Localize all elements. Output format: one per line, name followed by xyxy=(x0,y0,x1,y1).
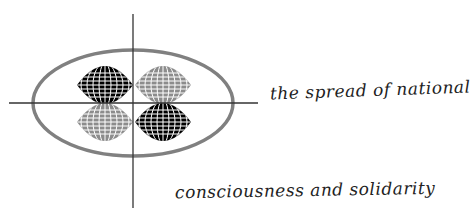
globe-bottom-right-icon xyxy=(135,100,191,144)
globe-top-right-icon xyxy=(135,63,191,107)
globe-top-left-icon xyxy=(77,63,133,107)
globe-bottom-left-icon xyxy=(77,100,133,144)
